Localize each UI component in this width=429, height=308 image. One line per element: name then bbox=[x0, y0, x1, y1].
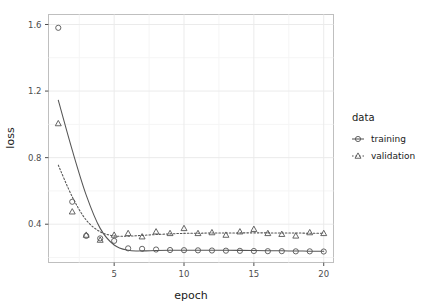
x-tick-label: 5 bbox=[111, 269, 116, 279]
y-tick-label: 1.6 bbox=[28, 20, 42, 30]
plot-panel bbox=[49, 15, 334, 263]
loss-vs-epoch-chart: 5101520 0.40.81.21.6 epoch loss data tra… bbox=[0, 0, 429, 308]
y-tick-label: 0.4 bbox=[28, 219, 42, 229]
y-axis-title: loss bbox=[4, 127, 17, 149]
legend-title: data bbox=[352, 112, 375, 123]
x-tick-label: 20 bbox=[318, 269, 329, 279]
y-tick-label: 0.8 bbox=[28, 153, 42, 163]
x-tick-label: 10 bbox=[179, 269, 190, 279]
legend-label-training: training bbox=[371, 134, 406, 144]
x-axis-title: epoch bbox=[174, 289, 208, 302]
y-tick-label: 1.2 bbox=[28, 86, 42, 96]
legend-label-validation: validation bbox=[371, 151, 415, 161]
x-tick-label: 15 bbox=[248, 269, 259, 279]
